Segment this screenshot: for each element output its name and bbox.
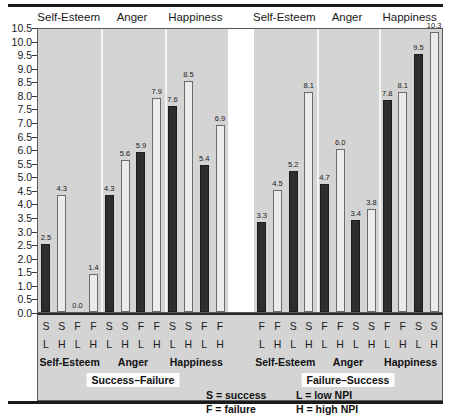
y-axis-tick-label: 4.0 — [17, 199, 32, 209]
bar-slot[interactable]: 4.3 — [57, 29, 66, 312]
y-axis-tick-label: 7.5 — [17, 104, 32, 114]
y-axis-tick-label: 3.5 — [17, 213, 32, 223]
bar-slot[interactable]: 1.4 — [89, 29, 98, 312]
bar-slot[interactable]: 5.9 — [136, 29, 145, 312]
bar-slot[interactable]: 5.4 — [200, 29, 209, 312]
bar[interactable] — [200, 165, 209, 312]
bar-slot[interactable]: 6.0 — [336, 29, 345, 312]
bar[interactable] — [257, 222, 266, 312]
y-axis-tick-label: 2.0 — [17, 254, 32, 264]
y-axis-tick-label: 3.0 — [17, 227, 32, 237]
bar-slot[interactable]: 7.6 — [168, 29, 177, 312]
outcome-tick: S — [180, 319, 196, 334]
bar-slot[interactable]: 4.7 — [320, 29, 329, 312]
bar-slot[interactable]: 5.2 — [289, 29, 298, 312]
bar-value-label: 4.7 — [319, 173, 329, 182]
column-header-anger: Anger — [316, 9, 379, 26]
bar-value-label: 3.8 — [366, 198, 376, 207]
bar-value-label: 7.9 — [152, 87, 162, 96]
group-separator — [165, 29, 167, 312]
bar-value-label: 5.4 — [199, 154, 209, 163]
outcome-tick: S — [411, 319, 427, 334]
bar-slot[interactable]: 6.9 — [216, 29, 225, 312]
bar[interactable] — [273, 190, 282, 312]
bar[interactable] — [216, 125, 225, 312]
npi-tick: H — [117, 337, 133, 352]
y-axis-tick-label: 6.0 — [17, 145, 32, 155]
bar-value-label: 6.0 — [335, 138, 345, 147]
column-headers-right-panel: Self-EsteemAngerHappiness — [253, 9, 441, 26]
bar[interactable] — [184, 81, 193, 312]
bar[interactable] — [89, 274, 98, 312]
bar-slot[interactable]: 7.8 — [383, 29, 392, 312]
y-axis-tick-label: 8.0 — [17, 91, 32, 101]
measure-labels-left: Self-EsteemAngerHappiness — [38, 355, 228, 370]
outcome-ticks-left: SSFFSSFFSSFF — [38, 319, 228, 334]
bar[interactable] — [41, 244, 50, 312]
tick-group: SSFF — [165, 319, 228, 334]
bar-value-label: 6.9 — [215, 114, 225, 123]
bar[interactable] — [105, 195, 114, 312]
bar[interactable] — [336, 149, 345, 312]
measure-labels-right: Self-EsteemAngerHappiness — [254, 355, 442, 370]
bar[interactable] — [136, 152, 145, 312]
bar-slot[interactable]: 7.9 — [152, 29, 161, 312]
outcome-tick: F — [254, 319, 270, 334]
outcome-tick: S — [348, 319, 364, 334]
bar[interactable] — [320, 184, 329, 312]
bar-value-label: 1.4 — [88, 263, 98, 272]
outcome-tick: S — [364, 319, 380, 334]
y-axis-tick-label: 5.0 — [17, 172, 32, 182]
y-axis-tick-label: 9.5 — [17, 50, 32, 60]
npi-tick: H — [364, 337, 380, 352]
npi-tick: H — [301, 337, 317, 352]
outcome-tick: F — [196, 319, 212, 334]
bar-value-label: 0.0 — [72, 301, 82, 310]
bar-slot[interactable]: 8.5 — [184, 29, 193, 312]
bar-slot[interactable]: 8.1 — [304, 29, 313, 312]
bar-slot[interactable]: 10.3 — [430, 29, 439, 312]
outcome-tick: F — [70, 319, 86, 334]
bar[interactable] — [398, 92, 407, 312]
panel-divider — [228, 29, 254, 312]
npi-tick: L — [133, 337, 149, 352]
npi-ticks-left: LHLHLHLHLHLH — [38, 337, 228, 352]
bar-slot[interactable]: 8.1 — [398, 29, 407, 312]
legend-entry: F = failure — [206, 402, 266, 416]
legend-entry: L = low NPI — [296, 388, 358, 402]
tick-group: LHLH — [379, 337, 442, 352]
bar[interactable] — [414, 54, 423, 312]
tick-group: LHLH — [317, 337, 380, 352]
outcome-tick: F — [395, 319, 411, 334]
bar-group: 3.34.55.28.1 — [254, 29, 317, 312]
bar-slot[interactable]: 0.0 — [73, 29, 82, 312]
outcome-tick: F — [212, 319, 228, 334]
npi-tick: L — [70, 337, 86, 352]
bar[interactable] — [121, 160, 130, 312]
outcome-tick: F — [133, 319, 149, 334]
bar[interactable] — [152, 98, 161, 312]
bar[interactable] — [351, 220, 360, 312]
bar-slot[interactable]: 3.4 — [351, 29, 360, 312]
bar[interactable] — [289, 171, 298, 312]
bar-slot[interactable]: 3.8 — [367, 29, 376, 312]
bar-slot[interactable]: 2.5 — [41, 29, 50, 312]
bar[interactable] — [367, 209, 376, 312]
bar-slot[interactable]: 4.3 — [105, 29, 114, 312]
bar-slot[interactable]: 4.5 — [273, 29, 282, 312]
panel-failure-success: 3.34.55.28.14.76.03.43.87.88.19.510.3 — [254, 29, 442, 312]
bar[interactable] — [304, 92, 313, 312]
plot-area: 2.54.30.01.44.35.65.97.97.68.55.46.9 3.3… — [37, 28, 443, 313]
bar[interactable] — [430, 32, 439, 312]
npi-tick: L — [254, 337, 270, 352]
bar-group: 2.54.30.01.4 — [38, 29, 101, 312]
outcome-tick: S — [165, 319, 181, 334]
outcome-tick: F — [317, 319, 333, 334]
bar-slot[interactable]: 5.6 — [121, 29, 130, 312]
bar-slot[interactable]: 3.3 — [257, 29, 266, 312]
bar[interactable] — [168, 106, 177, 312]
bar-slot[interactable]: 9.5 — [414, 29, 423, 312]
measure-label-anger: Anger — [317, 355, 380, 370]
bar[interactable] — [57, 195, 66, 312]
bar[interactable] — [383, 100, 392, 312]
